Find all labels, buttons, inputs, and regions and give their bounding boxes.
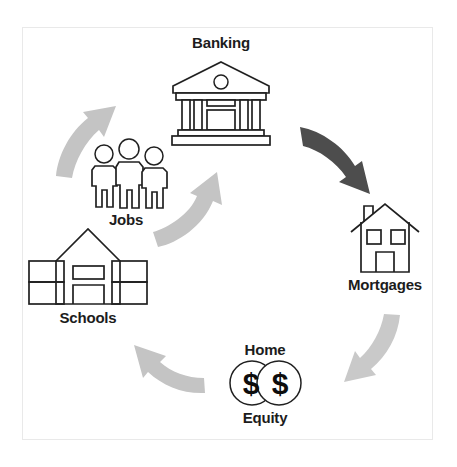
node-label-banking: Banking [192,34,250,51]
node-label-jobs: Jobs [109,211,143,228]
node-schools[interactable]: Schools [29,229,147,326]
node-label-mortgages: Mortgages [348,276,422,293]
arrow-banking-to-mortgages [300,127,370,194]
arrow-mortgages-to-home-equity [344,314,400,382]
node-home-equity[interactable]: Home $ $ Equity [230,341,301,426]
node-jobs[interactable]: Jobs [92,139,167,228]
node-label-schools: Schools [60,309,117,326]
cycle-diagram-svg: Banking Mortgages Home $ $ Equity [0,0,457,467]
node-banking[interactable]: Banking [172,34,270,145]
dollar-sign-right: $ [272,367,289,400]
dollar-sign-left: $ [243,367,260,400]
arrow-home-equity-to-schools [134,345,205,393]
node-label-home: Home [245,341,286,358]
node-mortgages[interactable]: Mortgages [348,204,422,293]
diagram-canvas: Banking Mortgages Home $ $ Equity [0,0,457,467]
node-label-equity: Equity [243,409,288,426]
